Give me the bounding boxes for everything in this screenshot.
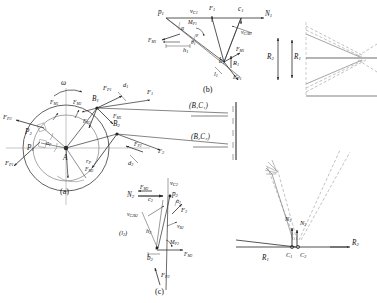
label-force-f1-b: F1: [209, 5, 215, 12]
label-point-a: A: [63, 155, 67, 162]
label-length-h1: h1: [183, 47, 188, 54]
label-force-fm1-bright: FM1: [236, 47, 244, 54]
panel-c-caption: (c): [155, 288, 164, 296]
label-velocity-vc2b2: vC2B2: [127, 212, 138, 219]
figure-root: ω B1 B2 A P2 P1 rP αP FP1 d1 F1 FM1 FM2 …: [0, 0, 377, 303]
label-velocity-vc1b1: vC1B1: [241, 30, 252, 37]
label-angle-theta-b: θ1: [191, 40, 196, 47]
label-length-l1: l1: [214, 71, 218, 78]
label-moment-mp1: MP1: [188, 20, 197, 27]
label-radius-r2-bottom: R2: [352, 240, 359, 248]
label-length-h2: h2: [146, 228, 151, 235]
label-node-n1: N1: [285, 216, 291, 223]
label-length-l2: (l2): [119, 230, 127, 237]
label-node-c1: C1: [286, 252, 292, 259]
label-force-f2-c: F2: [181, 207, 187, 214]
label-radius-r1-bottom: R1: [262, 255, 269, 263]
label-point-b2-c: b2: [147, 255, 153, 263]
label-force-fp1-b: FP1: [233, 74, 242, 81]
label-point-p2: P2: [25, 129, 32, 137]
label-point-p1-b: p1: [158, 9, 164, 17]
label-moment-mp2: MP2: [170, 240, 179, 247]
label-force-fp2-a: FP2: [83, 119, 91, 126]
label-force-fm2-c: FM2: [140, 185, 148, 192]
label-radius-rp: rP: [86, 158, 91, 165]
label-force-fp1-left: FP1: [5, 160, 14, 167]
label-angle-alpha-1: αP: [46, 141, 51, 148]
label-force-fm2-lower: FM2: [85, 167, 93, 174]
label-force-fm1-a: FM1: [50, 100, 58, 107]
label-point-b2: B2: [113, 121, 120, 129]
label-force-f2-a: F2: [158, 148, 164, 155]
label-radius-r2-top: R2: [267, 54, 274, 62]
label-omega: ω: [61, 80, 66, 87]
label-node-n2: N2: [300, 220, 306, 227]
vertical-wall-graphics: [233, 102, 236, 160]
label-connector-b2c2: (B₂C₂): [191, 134, 210, 141]
label-point-c2: c2: [148, 196, 153, 203]
label-velocity-vc2: vC2: [170, 180, 178, 187]
label-distance-d2: d2: [128, 160, 133, 167]
label-force-fp2-right: FP2: [134, 142, 142, 149]
label-radius-r1-top: R1: [294, 54, 301, 62]
label-point-n1: N1: [265, 11, 272, 19]
label-force-fm1-bleft: FM1: [148, 38, 156, 45]
label-force-f1-a: F1: [147, 89, 153, 96]
panel-a-caption: (a): [60, 188, 69, 196]
label-velocity-vb2: vB2: [177, 224, 184, 231]
label-point-p1: P1: [27, 145, 34, 153]
label-angle-alpha-c: α2: [176, 199, 181, 206]
label-velocity-vc1: vC1: [190, 8, 198, 15]
label-force-fp1-a: FP1: [103, 85, 112, 92]
panel-b-caption: (b): [203, 86, 212, 94]
label-node-c2: C2: [300, 252, 306, 259]
label-point-b1-b: b1: [219, 58, 225, 66]
panel-right-graphics: [236, 22, 377, 249]
label-force-fm2-a: FM2: [73, 100, 81, 107]
label-point-c1: c1: [238, 6, 244, 14]
label-point-n2: N2: [127, 192, 134, 200]
label-force-fm1-b1: FM1: [113, 114, 121, 121]
label-angle-alpha-b: α: [181, 26, 184, 32]
label-force-fm2-cright: FM2: [184, 252, 192, 259]
panel-b-graphics: [162, 16, 264, 80]
label-angle-eps-b: ε: [196, 33, 198, 39]
label-force-fp2-c: FP2: [161, 272, 170, 279]
label-force-fp3-a: FP3: [3, 114, 12, 121]
label-distance-d1: d1: [123, 82, 128, 89]
label-reaction-r1-b: R1: [233, 60, 239, 67]
label-connector-b1c1: (B₁C₁): [189, 103, 208, 110]
label-point-b1: B1: [92, 96, 99, 104]
